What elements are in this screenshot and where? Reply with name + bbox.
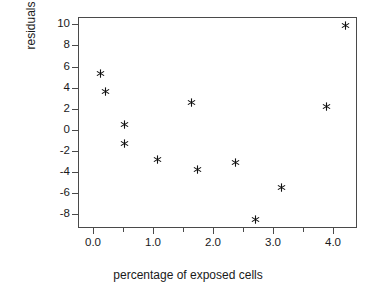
x-minor-tick-mark (123, 228, 124, 232)
y-tick-label: -8 (60, 208, 70, 220)
y-tick-mark (72, 214, 78, 215)
x-tick-label: 3.0 (253, 236, 293, 248)
x-minor-tick-mark (183, 228, 184, 232)
y-tick-mark (72, 151, 78, 152)
x-tick-mark (273, 228, 274, 234)
x-axis-title: percentage of exposed cells (0, 268, 376, 282)
x-tick-label: 2.0 (193, 236, 233, 248)
y-tick-label: 4 (64, 82, 70, 94)
y-tick-label: -4 (60, 166, 70, 178)
y-tick-mark (72, 88, 78, 89)
y-tick-mark (72, 67, 78, 68)
plot-area-frame (78, 17, 357, 228)
y-axis-title: residuals (22, 0, 40, 131)
x-minor-tick-mark (303, 228, 304, 232)
y-tick-mark (72, 130, 78, 131)
y-tick-mark (72, 24, 78, 25)
scatter-plot-figure: 1086420-2-4-6-8 0.01.02.03.04.0 percenta… (0, 0, 376, 297)
x-tick-mark (153, 228, 154, 234)
x-tick-mark (93, 228, 94, 234)
y-tick-mark (72, 45, 78, 46)
y-tick-label: 6 (64, 61, 70, 73)
y-tick-label: -2 (60, 145, 70, 157)
x-tick-mark (213, 228, 214, 234)
x-tick-label: 1.0 (133, 236, 173, 248)
y-tick-mark (72, 193, 78, 194)
y-tick-label: 8 (64, 39, 70, 51)
y-tick-mark (72, 172, 78, 173)
y-tick-label: 10 (57, 18, 70, 30)
y-tick-label: 0 (64, 124, 70, 136)
y-tick-mark (72, 109, 78, 110)
x-tick-mark (333, 228, 334, 234)
x-minor-tick-mark (243, 228, 244, 232)
y-tick-label: 2 (64, 103, 70, 115)
x-tick-label: 0.0 (73, 236, 113, 248)
y-tick-label: -6 (60, 187, 70, 199)
x-tick-label: 4.0 (313, 236, 353, 248)
